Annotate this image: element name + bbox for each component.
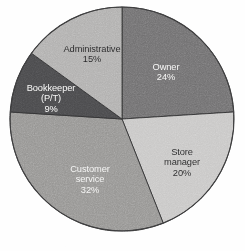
pie-chart-canvas [0, 0, 245, 251]
pie-chart-figure: Owner24%Storemanager20%Customerservice32… [0, 0, 245, 251]
pie-slice-owner[interactable] [122, 7, 234, 119]
pie-slice-group [10, 7, 234, 231]
